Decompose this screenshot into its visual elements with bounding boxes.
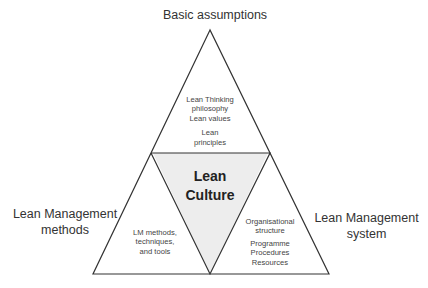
left-line-1: LM methods, bbox=[120, 228, 190, 237]
right-line-5: Resources bbox=[230, 258, 310, 267]
left-line-2: techniques, bbox=[120, 237, 190, 246]
center-line-1: Lean bbox=[160, 167, 260, 186]
top-line-3: Lean values bbox=[160, 114, 260, 123]
top-line-2: philosophy bbox=[160, 104, 260, 113]
right-label: Lean Management system bbox=[305, 211, 428, 242]
center-line-2: Culture bbox=[160, 186, 260, 205]
top-line-4: Lean bbox=[160, 128, 260, 137]
center-label: Lean Culture bbox=[160, 167, 260, 205]
top-line-5: principles bbox=[160, 138, 260, 147]
right-line-2: structure bbox=[230, 226, 310, 235]
left-triangle-text: LM methods, techniques, and tools bbox=[120, 228, 190, 256]
top-line-1: Lean Thinking bbox=[160, 95, 260, 104]
right-line-4: Procedures bbox=[230, 248, 310, 257]
left-label-line1: Lean Management bbox=[0, 207, 130, 223]
right-label-line2: system bbox=[305, 227, 428, 243]
left-label-line2: methods bbox=[0, 223, 130, 239]
left-label: Lean Management methods bbox=[0, 207, 130, 238]
right-line-3: Programme bbox=[230, 239, 310, 248]
left-line-3: and tools bbox=[120, 247, 190, 256]
top-triangle-text: Lean Thinking philosophy Lean values Lea… bbox=[160, 95, 260, 147]
right-label-line1: Lean Management bbox=[305, 211, 428, 227]
right-line-1: Organisational bbox=[230, 217, 310, 226]
top-label: Basic assumptions bbox=[130, 8, 300, 24]
right-triangle-text: Organisational structure Programme Proce… bbox=[230, 217, 310, 267]
